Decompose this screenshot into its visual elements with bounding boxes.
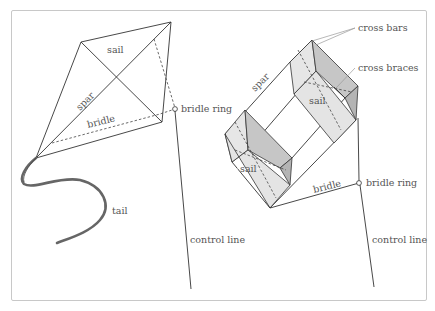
- diamond-kite-tail: [22, 158, 106, 243]
- label-box-cross-bars: cross bars: [358, 22, 408, 33]
- diamond-kite-control-line: [175, 111, 191, 289]
- label-box-cross-braces: cross braces: [358, 62, 419, 73]
- label-diamond-bridle-ring: bridle ring: [181, 103, 232, 114]
- box-kite-bridle-upper: [358, 118, 359, 181]
- box-kite: cross bars cross braces spar sail sail b…: [225, 22, 427, 287]
- diamond-kite-bridle-ring-icon: [173, 107, 178, 112]
- diamond-kite: sail spar bridle bridle ring tail contro…: [22, 22, 246, 289]
- label-box-control-line: control line: [372, 234, 427, 245]
- label-diamond-control-line: control line: [190, 234, 245, 245]
- label-box-sail-upper: sail: [309, 95, 326, 106]
- diamond-kite-spar-long: [36, 22, 171, 158]
- label-box-spar: spar: [249, 70, 272, 93]
- leader-cross-bars-2: [316, 28, 355, 45]
- label-box-sail-lower: sail: [240, 163, 257, 174]
- label-box-bridle-ring: bridle ring: [366, 177, 417, 188]
- leader-cross-bars-1: [312, 28, 355, 41]
- label-diamond-bridle: bridle: [86, 112, 117, 130]
- label-diamond-sail: sail: [107, 44, 124, 55]
- box-kite-bridle-ring-icon: [357, 181, 362, 186]
- label-diamond-tail: tail: [112, 205, 128, 216]
- kite-diagram: sail spar bridle bridle ring tail contro…: [0, 0, 435, 311]
